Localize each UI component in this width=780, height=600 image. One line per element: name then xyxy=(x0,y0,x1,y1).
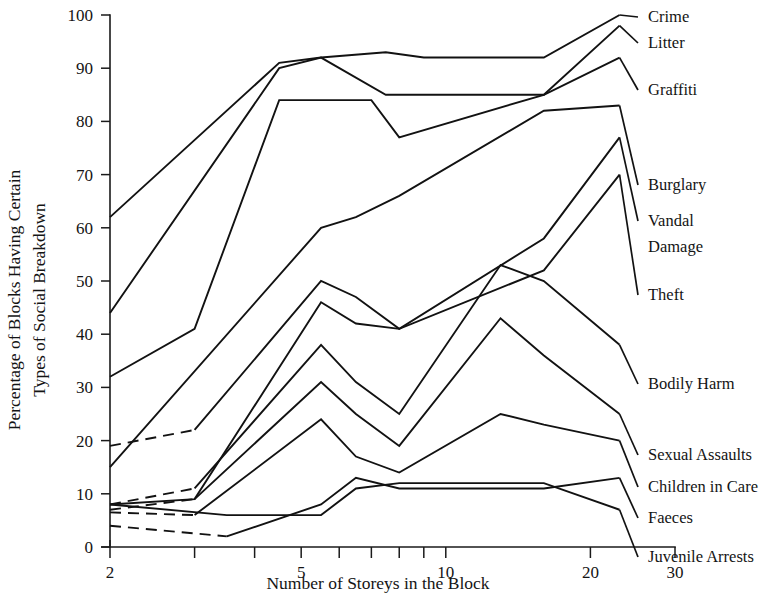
series-label: Children in Care xyxy=(648,477,758,496)
series-label: Bodily Harm xyxy=(648,374,735,393)
x-tick-label: 20 xyxy=(582,563,599,582)
leader-line xyxy=(620,510,638,557)
series-line-dashed xyxy=(110,526,227,537)
leader-line xyxy=(620,58,638,90)
leader-line xyxy=(620,137,638,221)
label-leader-lines xyxy=(620,15,638,557)
series-line xyxy=(110,175,620,505)
series-line xyxy=(195,318,620,499)
series-label: Graffiti xyxy=(648,80,698,99)
series-line xyxy=(110,58,620,377)
series-line xyxy=(195,137,620,430)
series-line-dashed xyxy=(110,430,195,446)
y-tick-label: 70 xyxy=(76,166,93,185)
y-tick-label: 10 xyxy=(76,485,93,504)
series-label: Sexual Assaults xyxy=(648,445,752,464)
y-tick-label: 40 xyxy=(76,325,93,344)
series-label: Theft xyxy=(648,285,684,304)
series-label: Juvenile Arrests xyxy=(648,547,754,566)
series-line xyxy=(227,478,620,537)
series-line xyxy=(110,15,620,217)
y-tick-label: 100 xyxy=(68,6,94,25)
leader-line xyxy=(620,478,638,518)
leader-line xyxy=(620,26,638,43)
x-axis-title: Number of Storeys in the Block xyxy=(266,573,489,593)
series-labels: CrimeLitterGraffitiBurglaryVandalDamageT… xyxy=(648,7,758,566)
y-axis-title-line1: Percentage of Blocks Having Certain xyxy=(4,170,24,431)
y-tick-label: 60 xyxy=(76,219,93,238)
x-tick-label: 2 xyxy=(106,563,115,582)
series-label: Burglary xyxy=(648,175,707,194)
series-line xyxy=(195,414,620,515)
series-label: Litter xyxy=(648,33,685,52)
y-axis-title-line2: Types of Social Breakdown xyxy=(29,203,49,397)
y-tick-label: 80 xyxy=(76,112,93,131)
y-tick-label: 90 xyxy=(76,59,93,78)
y-tick-label: 0 xyxy=(85,538,94,557)
tick-marks xyxy=(101,15,675,558)
series-label: Crime xyxy=(648,7,689,26)
y-tick-label: 20 xyxy=(76,432,93,451)
chart-figure: 0102030405060708090100 25102030 CrimeLit… xyxy=(0,0,780,600)
series-label: Damage xyxy=(648,237,703,256)
chart-svg: 0102030405060708090100 25102030 CrimeLit… xyxy=(0,0,780,600)
leader-line xyxy=(620,105,638,185)
y-tick-label: 50 xyxy=(76,272,93,291)
series-line xyxy=(110,105,620,467)
leader-line xyxy=(620,175,638,295)
leader-line xyxy=(620,345,638,384)
y-tick-label: 30 xyxy=(76,378,93,397)
leader-line xyxy=(620,15,638,17)
series-label: Vandal xyxy=(648,211,694,230)
data-series xyxy=(110,15,620,536)
y-tick-labels: 0102030405060708090100 xyxy=(68,6,94,557)
series-label: Faeces xyxy=(648,508,693,527)
series-line-dashed xyxy=(110,512,195,515)
